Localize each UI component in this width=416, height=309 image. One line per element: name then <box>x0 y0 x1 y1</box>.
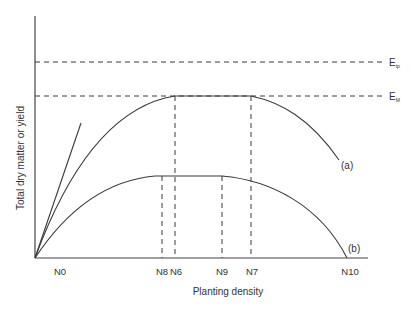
tick-n8: N8 <box>156 266 168 277</box>
y-axis-title: Total dry matter or yield <box>15 106 26 210</box>
e-tp-label: Etp <box>389 57 400 69</box>
x-axis-title: Planting density <box>193 286 264 297</box>
tick-n10: N10 <box>341 266 358 277</box>
curve-a <box>35 96 339 258</box>
tick-n0: N0 <box>54 266 66 277</box>
curve-b-label: (b) <box>348 243 360 254</box>
yield-density-chart: Etp EM (a) (b) N0 N8 N6 N9 N7 N10 Planti… <box>0 0 416 309</box>
tick-n6: N6 <box>170 266 182 277</box>
tick-n9: N9 <box>216 266 228 277</box>
curve-b <box>35 176 347 258</box>
tick-n7: N7 <box>246 266 258 277</box>
linear-line <box>35 123 81 258</box>
curve-a-label: (a) <box>341 160 353 171</box>
e-m-label: EM <box>389 91 400 103</box>
